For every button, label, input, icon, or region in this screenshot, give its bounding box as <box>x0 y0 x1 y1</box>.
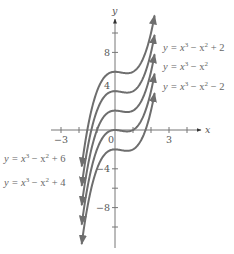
left-labels: y = x3 − x2 + 6 y = x3 − x2 + 4 <box>3 152 66 188</box>
label-c-plus-2: y = x3 − x2 + 2 <box>162 41 225 53</box>
x-tick-label: 0 <box>108 134 114 145</box>
label-c-minus-2: y = x3 − x2 − 2 <box>162 80 225 92</box>
y-tick-label: −8 <box>96 202 110 213</box>
x-tick-label: −3 <box>54 134 68 145</box>
x-tick-label: 3 <box>166 134 172 145</box>
x-axis-label: x <box>205 124 211 135</box>
y-tick-label: 4 <box>104 80 110 91</box>
right-labels: y = x3 − x2 + 2 y = x3 − x2 y = x3 − x2 … <box>162 41 225 92</box>
label-c-plus-6: y = x3 − x2 + 6 <box>3 152 66 164</box>
label-c-0: y = x3 − x2 <box>162 60 209 72</box>
y-tick-label: 8 <box>104 47 110 58</box>
label-c-plus-4: y = x3 − x2 + 4 <box>3 176 66 188</box>
y-axis-label: y <box>111 5 118 16</box>
cubic-family-chart: −303 84−4−8 x y y = x3 − x2 + 2 y = x3 −… <box>0 0 234 254</box>
